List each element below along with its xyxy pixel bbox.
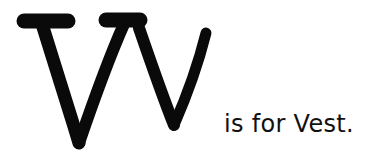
lowercase-v-glyph bbox=[139, 28, 206, 125]
caption-text: is for Vest. bbox=[224, 110, 354, 138]
uppercase-v-glyph bbox=[24, 20, 140, 143]
